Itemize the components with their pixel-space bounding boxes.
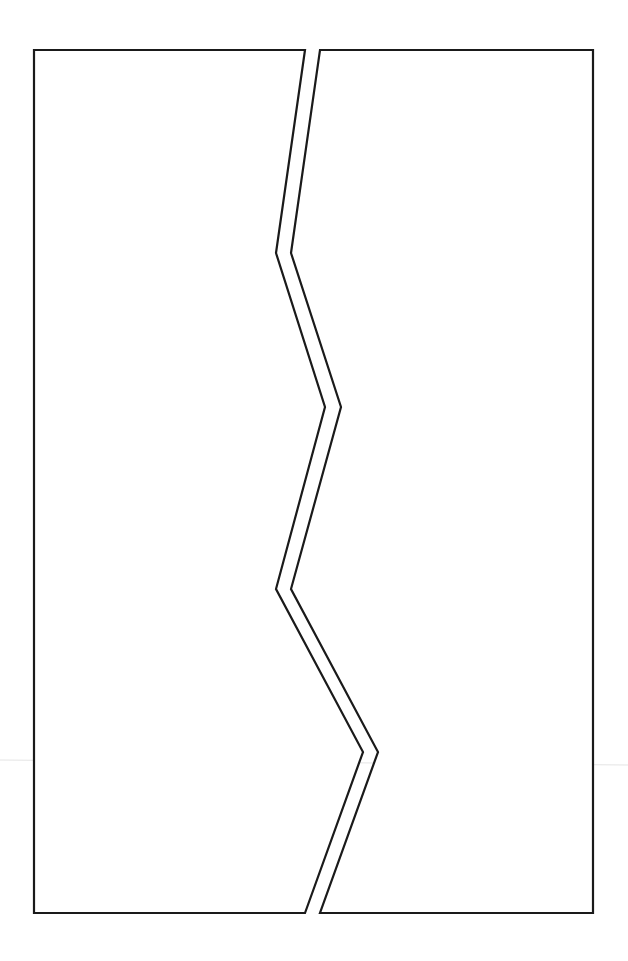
comic-page — [0, 0, 628, 961]
panel-layout — [0, 0, 628, 961]
